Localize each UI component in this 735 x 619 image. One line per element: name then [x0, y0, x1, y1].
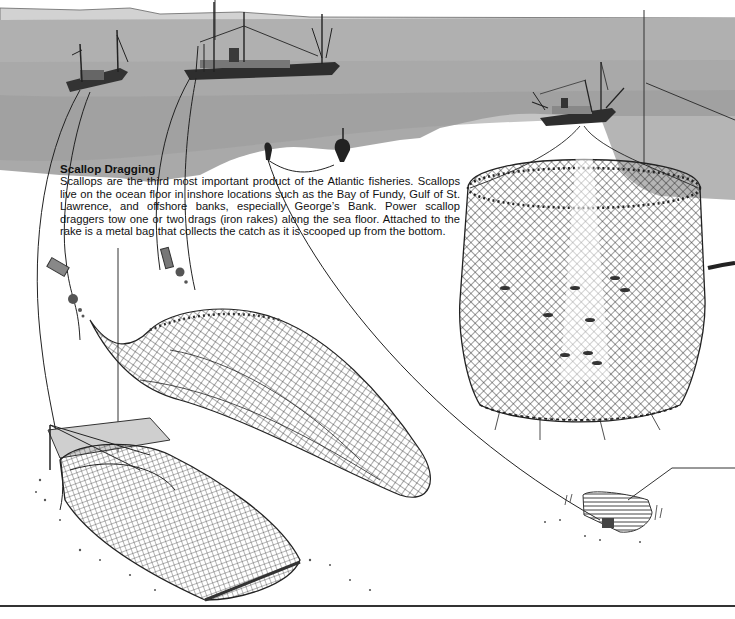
fishing-illustration [0, 0, 735, 619]
caption-title: Scallop Dragging [60, 163, 460, 175]
purse-seine-net [460, 124, 705, 440]
illustration-page: Scallop Dragging Scallops are the third … [0, 0, 735, 619]
caption-body: Scallops are the third most important pr… [60, 175, 460, 237]
caption-block: Scallop Dragging Scallops are the third … [60, 163, 460, 237]
page-bottom-rule [0, 605, 735, 607]
